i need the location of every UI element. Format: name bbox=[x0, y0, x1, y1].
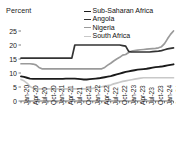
x-tick-jul-23: Jul-23 bbox=[149, 87, 156, 105]
y-tick-10: 10 bbox=[3, 70, 17, 77]
chart-legend: Sub-Saharan Africa Angola Nigeria South … bbox=[84, 7, 176, 41]
legend-swatch-sub-saharan-africa bbox=[84, 11, 91, 12]
y-tick-5: 5 bbox=[3, 84, 17, 91]
legend-item-angola: Angola bbox=[84, 15, 176, 23]
legend-swatch-nigeria bbox=[84, 27, 91, 28]
legend-label-south-africa: South Africa bbox=[93, 32, 131, 40]
legend-label-angola: Angola bbox=[93, 15, 115, 23]
y-tick-25: 25 bbox=[3, 28, 17, 35]
x-tick-jul-21: Jul-21 bbox=[77, 87, 84, 105]
y-tick-0: 0 bbox=[3, 98, 17, 105]
x-tick-jan-20: Jan-20 bbox=[24, 85, 31, 105]
x-tick-apr-22: Apr-22 bbox=[104, 85, 111, 105]
series-line-angola bbox=[21, 45, 174, 58]
legend-item-sub-saharan-africa: Sub-Saharan Africa bbox=[84, 7, 176, 15]
x-tick-jan-23: Jan-23 bbox=[131, 85, 138, 105]
y-tick-15: 15 bbox=[3, 56, 17, 63]
legend-label-sub-saharan-africa: Sub-Saharan Africa bbox=[93, 7, 154, 15]
x-tick-oct-22: Oct-22 bbox=[122, 85, 129, 105]
y-axis-title: Percent bbox=[6, 6, 31, 15]
line-chart: Percent Sub-Saharan Africa Angola Nigeri… bbox=[0, 0, 176, 151]
x-tick-oct-21: Oct-21 bbox=[86, 85, 93, 105]
x-tick-oct-20: Oct-20 bbox=[51, 85, 58, 105]
legend-item-nigeria: Nigeria bbox=[84, 24, 176, 32]
legend-swatch-south-africa bbox=[84, 36, 91, 37]
legend-swatch-angola bbox=[84, 19, 91, 20]
y-tick-20: 20 bbox=[3, 42, 17, 49]
x-tick-apr-21: Apr-21 bbox=[68, 85, 75, 105]
x-tick-jul-20: Jul-20 bbox=[42, 87, 49, 105]
x-tick-jan-21: Jan-21 bbox=[59, 85, 66, 105]
x-tick-oct-23: Oct-23 bbox=[158, 85, 165, 105]
x-tick-jul-22: Jul-22 bbox=[113, 87, 120, 105]
x-tick-apr-20: Apr-20 bbox=[33, 85, 40, 105]
x-tick-jan-22: Jan-22 bbox=[95, 85, 102, 105]
x-tick-jan-24: Jan-24 bbox=[167, 85, 174, 105]
x-tick-apr-23: Apr-23 bbox=[140, 85, 147, 105]
legend-label-nigeria: Nigeria bbox=[93, 24, 115, 32]
legend-item-south-africa: South Africa bbox=[84, 32, 176, 40]
